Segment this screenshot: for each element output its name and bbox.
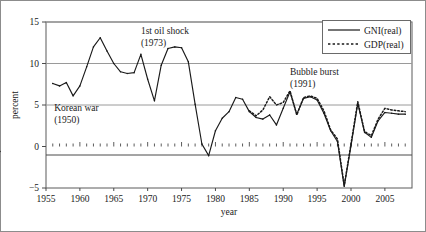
data-point-marker <box>52 83 54 85</box>
y-tick-label-0: 0 <box>34 142 39 152</box>
data-point-marker <box>66 82 68 84</box>
data-point-marker <box>398 113 400 115</box>
data-point-marker <box>167 48 169 50</box>
x-tick-label-1990: 1990 <box>274 194 293 204</box>
data-point-marker <box>384 112 386 114</box>
x-tick-label-1970: 1970 <box>138 194 157 204</box>
annotation-korean-war-line1: Korean war <box>54 103 99 113</box>
data-point-marker <box>201 143 203 145</box>
data-point-marker <box>194 103 196 105</box>
annotation-first-oil-shock-line2: (1973) <box>141 38 166 49</box>
data-point-marker <box>59 85 61 87</box>
data-point-marker <box>140 54 142 56</box>
data-point-marker <box>154 100 156 102</box>
data-point-marker <box>255 117 257 119</box>
x-axis-title: year <box>221 207 238 217</box>
y-axis-title: percent <box>10 91 20 119</box>
x-tick-label-2005: 2005 <box>375 194 394 204</box>
annotation-bubble-burst-line2: (1991) <box>290 79 315 90</box>
chart-legend: GNI(real) GDP(real) <box>323 21 411 54</box>
y-tick-label-10: 10 <box>30 59 40 69</box>
data-point-marker <box>147 79 149 81</box>
data-point-marker <box>174 46 176 48</box>
data-point-marker <box>106 50 108 52</box>
annotation-bubble-burst-line1: Bubble burst <box>290 67 339 77</box>
chart-figure: 151050−5 1955196019651970197519801985199… <box>0 0 426 232</box>
data-point-marker <box>72 95 74 97</box>
data-point-marker <box>120 71 122 73</box>
data-point-marker <box>391 113 393 115</box>
x-tick-label-1980: 1980 <box>206 194 225 204</box>
data-point-marker <box>235 97 237 99</box>
data-point-marker <box>215 130 217 132</box>
data-point-marker <box>181 47 183 49</box>
x-tick-label-1975: 1975 <box>172 194 191 204</box>
data-point-marker <box>276 124 278 126</box>
data-point-marker <box>133 72 135 74</box>
y-tick-label--5: −5 <box>29 183 39 193</box>
x-tick-label-1985: 1985 <box>240 194 259 204</box>
data-point-marker <box>221 118 223 120</box>
data-point-marker <box>208 155 210 157</box>
data-point-marker <box>242 98 244 100</box>
data-point-marker <box>99 37 101 39</box>
x-tick-label-1960: 1960 <box>70 194 89 204</box>
data-point-marker <box>228 111 230 113</box>
annotation-first-oil-shock-line1: 1st oil shock <box>141 26 189 36</box>
economic-growth-line-chart: 151050−5 1955196019651970197519801985199… <box>0 0 426 232</box>
x-tick-label-2000: 2000 <box>342 194 361 204</box>
x-tick-label-1955: 1955 <box>37 194 56 204</box>
data-point-marker <box>93 46 95 48</box>
data-point-marker <box>262 118 264 120</box>
data-point-marker <box>371 137 373 139</box>
annotation-korean-war-line2: (1950) <box>54 115 79 126</box>
data-point-marker <box>404 113 406 115</box>
data-point-marker <box>188 61 190 63</box>
data-point-marker <box>160 64 162 66</box>
data-point-marker <box>282 108 284 110</box>
y-tick-label-15: 15 <box>30 17 40 27</box>
data-point-marker <box>79 85 81 87</box>
y-tick-label-5: 5 <box>34 100 39 110</box>
legend-label-gdp: GDP(real) <box>364 40 404 51</box>
data-point-marker <box>269 114 271 116</box>
data-point-marker <box>127 73 129 75</box>
data-point-marker <box>113 63 115 65</box>
x-tick-label-1995: 1995 <box>308 194 327 204</box>
x-tick-label-1965: 1965 <box>104 194 123 204</box>
data-point-marker <box>86 66 88 68</box>
legend-label-gni: GNI(real) <box>364 26 401 37</box>
